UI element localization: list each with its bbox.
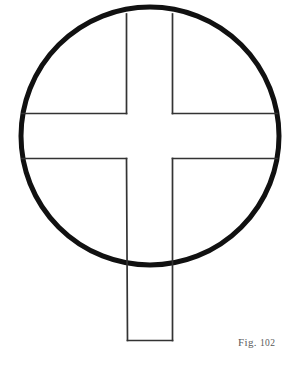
figure-caption-number: 102 [257, 338, 275, 348]
figure-caption: Fig.102 [238, 334, 296, 350]
figure-caption-label: Fig. [238, 336, 257, 348]
cross-vertical-left-lower-edge [127, 159, 128, 341]
cross-in-circle-diagram [0, 0, 298, 365]
figure-plate: Fig.102 [0, 0, 298, 365]
